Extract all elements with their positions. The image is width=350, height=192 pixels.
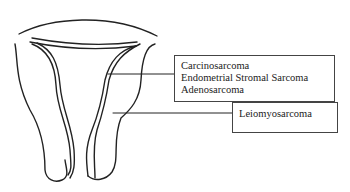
label-leiomyosarcoma: Leiomyosarcoma bbox=[239, 108, 331, 120]
left-wall bbox=[15, 44, 67, 181]
label-adenosarcoma: Adenosarcoma bbox=[181, 84, 328, 96]
fundus-outline bbox=[19, 20, 157, 36]
label-box-myometrial-tumor: Leiomyosarcoma bbox=[232, 102, 338, 133]
diagram: Carcinosarcoma Endometrial Stromal Sarco… bbox=[0, 0, 350, 192]
label-carcinosarcoma: Carcinosarcoma bbox=[181, 60, 328, 72]
label-endometrial-stromal-sarcoma: Endometrial Stromal Sarcoma bbox=[181, 72, 328, 84]
label-box-endometrial-tumors: Carcinosarcoma Endometrial Stromal Sarco… bbox=[174, 55, 335, 102]
